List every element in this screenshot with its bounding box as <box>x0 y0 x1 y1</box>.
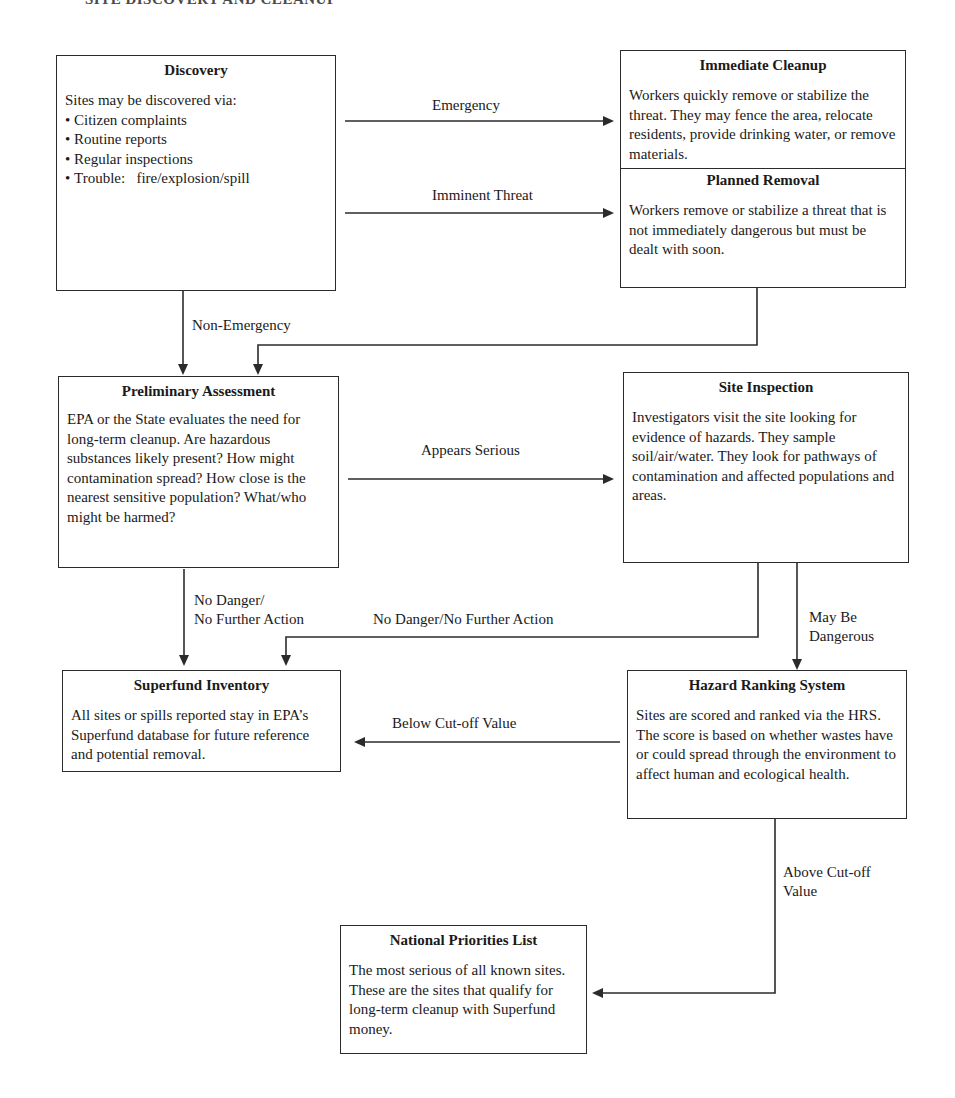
preliminary-assessment-box: Preliminary Assessment EPA or the State … <box>58 376 339 568</box>
hazard-ranking-system-box: Hazard Ranking System Sites are scored a… <box>627 670 907 819</box>
site-inspection-title: Site Inspection <box>624 378 908 396</box>
discovery-body: Sites may be discovered via: Citizen com… <box>57 91 335 189</box>
preliminary-assessment-body: EPA or the State evaluates the need for … <box>59 410 338 527</box>
discovery-intro: Sites may be discovered via: <box>65 91 327 111</box>
arrow-above-cutoff <box>592 818 775 998</box>
site-inspection-box: Site Inspection Investigators visit the … <box>623 372 909 563</box>
arrow-may-be-dangerous <box>792 563 802 670</box>
national-priorities-list-box: National Priorities List The most seriou… <box>340 925 587 1054</box>
edge-label-appears-serious: Appears Serious <box>421 441 520 460</box>
edge-label-may-be-2: Dangerous <box>809 627 874 646</box>
national-priorities-list-title: National Priorities List <box>341 931 586 949</box>
arrow-no-danger-left <box>179 569 189 666</box>
planned-removal-title: Planned Removal <box>621 171 905 189</box>
superfund-inventory-title: Superfund Inventory <box>63 676 340 694</box>
section-divider <box>621 168 905 169</box>
immediate-cleanup-body: Workers quickly remove or stabilize the … <box>621 86 905 164</box>
page-title: SITE DISCOVERY AND CLEANUP <box>85 0 337 8</box>
edge-label-no-danger-left-1: No Danger/ <box>194 591 264 610</box>
edge-label-above-cutoff-2: Value <box>783 882 817 901</box>
arrow-imminent-threat <box>345 208 614 218</box>
edge-label-imminent-threat: Imminent Threat <box>432 186 533 205</box>
cleanup-removal-box: Immediate Cleanup Workers quickly remove… <box>620 50 906 288</box>
arrow-below-cutoff <box>354 737 620 747</box>
edge-label-no-danger-right: No Danger/No Further Action <box>373 610 553 629</box>
preliminary-assessment-title: Preliminary Assessment <box>59 382 338 400</box>
national-priorities-list-body: The most serious of all known sites. The… <box>341 961 586 1039</box>
arrow-appears-serious <box>348 474 614 484</box>
discovery-bullet-list: Citizen complaints Routine reports Regul… <box>65 111 327 189</box>
discovery-box: Discovery Sites may be discovered via: C… <box>56 55 336 291</box>
edge-label-no-danger-left-2: No Further Action <box>194 610 304 629</box>
discovery-bullet: Citizen complaints <box>65 111 327 131</box>
edge-label-below-cutoff: Below Cut-off Value <box>392 714 516 733</box>
arrow-non-emergency <box>178 291 188 375</box>
site-inspection-body: Investigators visit the site looking for… <box>624 408 908 506</box>
edge-label-non-emergency: Non-Emergency <box>192 316 291 335</box>
superfund-inventory-box: Superfund Inventory All sites or spills … <box>62 670 341 772</box>
hazard-ranking-system-title: Hazard Ranking System <box>628 676 906 694</box>
edge-label-emergency: Emergency <box>432 96 500 115</box>
discovery-title: Discovery <box>57 61 335 79</box>
superfund-inventory-body: All sites or spills reported stay in EPA… <box>63 706 340 765</box>
discovery-bullet: Routine reports <box>65 130 327 150</box>
edge-label-may-be-1: May Be <box>809 608 857 627</box>
planned-removal-body: Workers remove or stabilize a threat tha… <box>621 201 905 260</box>
immediate-cleanup-title: Immediate Cleanup <box>621 56 905 74</box>
hazard-ranking-system-body: Sites are scored and ranked via the HRS.… <box>628 706 906 784</box>
arrow-emergency <box>345 116 614 126</box>
edge-label-above-cutoff-1: Above Cut-off <box>783 863 871 882</box>
discovery-bullet: Regular inspections <box>65 150 327 170</box>
discovery-bullet: Trouble: fire/explosion/spill <box>65 169 327 189</box>
arrow-removal-to-assessment <box>253 287 757 375</box>
